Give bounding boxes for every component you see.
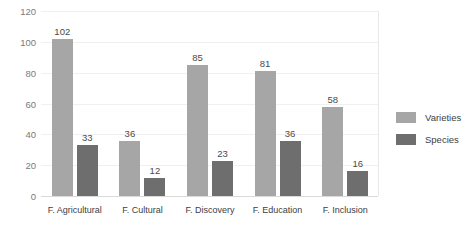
bar-rect <box>255 71 276 196</box>
legend-swatch-icon <box>396 134 416 145</box>
legend-swatch-icon <box>396 112 416 123</box>
bar-group: 3612 <box>119 11 165 196</box>
bar-rect <box>119 141 140 197</box>
bar-rect <box>280 141 301 197</box>
legend-label: Species <box>425 134 459 145</box>
bar-group: 8523 <box>187 11 233 196</box>
legend-label: Varieties <box>425 112 461 123</box>
bar-rect <box>77 145 98 196</box>
y-tick-label-0: 0 <box>6 191 36 202</box>
bar-value-label: 33 <box>82 132 93 143</box>
bar-group: 10233 <box>52 11 98 196</box>
plot-area: 102333612852381365816 <box>41 11 379 196</box>
bar-rect <box>187 65 208 196</box>
bar-value-label: 36 <box>125 128 136 139</box>
bar-value-label: 36 <box>285 128 296 139</box>
bar-chart: 020406080100120 102333612852381365816 F.… <box>0 0 476 228</box>
bar-group: 8136 <box>255 11 301 196</box>
bar-rect <box>144 178 165 197</box>
legend-item-varieties[interactable]: Varieties <box>396 108 461 126</box>
y-tick-label-80: 80 <box>6 67 36 78</box>
y-tick-label-20: 20 <box>6 160 36 171</box>
x-tick-label-2: F. Discovery <box>185 205 234 215</box>
bar-rect <box>322 107 343 196</box>
gridline-0 <box>41 196 378 197</box>
x-tick-label-3: F. Education <box>253 205 303 215</box>
bar-value-label: 58 <box>327 94 338 105</box>
x-tick-label-0: F. Agricultural <box>48 205 102 215</box>
y-tick-label-120: 120 <box>6 6 36 17</box>
bar-value-label: 23 <box>217 148 228 159</box>
y-tick-label-100: 100 <box>6 36 36 47</box>
bar-value-label: 16 <box>352 158 363 169</box>
chart-legend: VarietiesSpecies <box>396 108 461 152</box>
x-tick-label-4: F. Inclusion <box>323 205 368 215</box>
bar-value-label: 102 <box>54 26 70 37</box>
bar-rect <box>52 39 73 196</box>
bar-rect <box>212 161 233 196</box>
bar-rect <box>347 171 368 196</box>
bar-value-label: 12 <box>150 165 161 176</box>
y-tick-label-40: 40 <box>6 129 36 140</box>
x-tick-label-1: F. Cultural <box>122 205 163 215</box>
legend-item-species[interactable]: Species <box>396 130 461 148</box>
y-tick-label-60: 60 <box>6 98 36 109</box>
bar-value-label: 81 <box>260 58 271 69</box>
bar-group: 5816 <box>322 11 368 196</box>
bar-value-label: 85 <box>192 52 203 63</box>
